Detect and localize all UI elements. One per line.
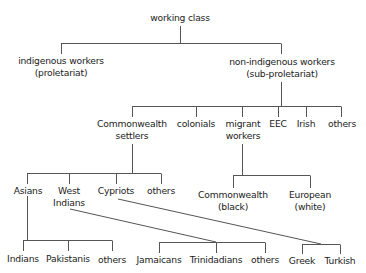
node-label: Indians bbox=[7, 253, 39, 265]
node-label: non-indigenous workers bbox=[229, 56, 335, 68]
node-irish: Irish bbox=[297, 118, 316, 130]
node-label: working class bbox=[150, 12, 210, 23]
node-others-west-indians: others bbox=[251, 254, 279, 266]
node-cypriots: Cypriots bbox=[98, 185, 134, 197]
node-label: Jamaicans bbox=[137, 254, 182, 266]
node-others-non-indigenous: others bbox=[328, 118, 356, 130]
node-european-white: European(white) bbox=[289, 189, 331, 213]
node-label: others bbox=[328, 118, 356, 130]
node-label: Trinidadians bbox=[190, 254, 243, 266]
node-label: West bbox=[53, 185, 85, 197]
node-label: Pakistanis bbox=[46, 253, 90, 265]
node-label: indigenous workers bbox=[18, 55, 104, 67]
node-label: Cypriots bbox=[98, 185, 134, 197]
node-indians: Indians bbox=[7, 253, 39, 265]
node-label: Irish bbox=[297, 118, 316, 130]
node-trinidadians: Trinidadians bbox=[190, 254, 243, 266]
node-label: others bbox=[251, 254, 279, 266]
node-label: colonials bbox=[177, 118, 215, 130]
node-west-indians: WestIndians bbox=[53, 185, 85, 209]
node-eec: EEC bbox=[269, 118, 286, 130]
node-jamaicans: Jamaicans bbox=[137, 254, 182, 266]
node-label: Asians bbox=[14, 185, 43, 197]
node-sublabel: (proletariat) bbox=[18, 67, 104, 79]
node-colonials: colonials bbox=[177, 118, 215, 130]
node-others-asians: others bbox=[98, 254, 126, 266]
node-sublabel: (sub-proletariat) bbox=[229, 68, 335, 80]
node-non-indigenous-workers: non-indigenous workers(sub-proletariat) bbox=[229, 56, 335, 80]
node-sublabel: settlers bbox=[97, 130, 167, 142]
node-others-commonwealth-settlers: others bbox=[147, 185, 175, 197]
node-sublabel: workers bbox=[226, 130, 261, 142]
node-greek: Greek bbox=[289, 255, 315, 267]
node-label: Commonwealth bbox=[198, 189, 268, 201]
node-label: others bbox=[98, 254, 126, 266]
node-label: others bbox=[147, 185, 175, 197]
node-sublabel: (black) bbox=[198, 201, 268, 213]
node-sublabel: Indians bbox=[53, 197, 85, 209]
node-commonwealth-black: Commonwealth(black) bbox=[198, 189, 268, 213]
node-working-class: working class bbox=[150, 12, 210, 24]
node-label: Greek bbox=[289, 255, 315, 267]
node-label: migrant bbox=[226, 118, 261, 130]
node-commonwealth-settlers: Commonwealthsettlers bbox=[97, 118, 167, 142]
node-label: Turkish bbox=[325, 255, 356, 267]
tree-connectors bbox=[0, 0, 366, 273]
node-sublabel: (white) bbox=[289, 201, 331, 213]
node-asians: Asians bbox=[14, 185, 43, 197]
node-label: EEC bbox=[269, 118, 286, 130]
node-label: Commonwealth bbox=[97, 118, 167, 130]
node-indigenous-workers: indigenous workers(proletariat) bbox=[18, 55, 104, 79]
node-pakistanis: Pakistanis bbox=[46, 253, 90, 265]
node-label: European bbox=[289, 189, 331, 201]
node-migrant-workers: migrantworkers bbox=[226, 118, 261, 142]
node-turkish: Turkish bbox=[325, 255, 356, 267]
